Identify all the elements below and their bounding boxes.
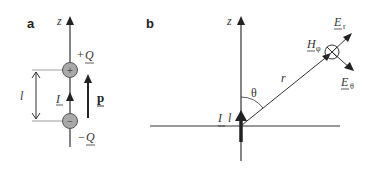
positive-charge-sign: +	[67, 65, 73, 76]
theta-label: θ	[251, 86, 257, 100]
e-r-label: E	[333, 15, 342, 29]
z-axis-label-b: z	[226, 14, 232, 28]
dipole-moment-arrowhead	[84, 74, 92, 83]
length-label: l	[20, 89, 24, 103]
panel-b-label: b	[146, 16, 154, 31]
z-axis-label-a: z	[56, 14, 62, 28]
current-arrow	[66, 92, 74, 101]
positive-charge-prefix: +	[77, 48, 84, 62]
e-theta-label: E	[340, 75, 349, 89]
current-label: I	[55, 92, 61, 106]
radius-label: r	[281, 71, 286, 85]
source-length-label: l	[228, 111, 232, 125]
negative-charge-symbol: Q	[86, 130, 95, 144]
negative-charge-prefix: −	[78, 130, 85, 144]
e-theta-subscript: θ	[350, 82, 354, 91]
dipole-moment-label: p	[97, 90, 104, 105]
panel-b: b z I l θ r H φ E r E	[146, 14, 354, 161]
current-element-arrowhead	[235, 110, 247, 121]
positive-charge-symbol: Q	[85, 48, 94, 62]
source-current-label: I	[217, 111, 223, 125]
e-r-subscript: r	[343, 22, 346, 31]
dipole-diagram: a z l I + + Q − − Q p b	[0, 0, 373, 169]
negative-charge-sign: −	[67, 116, 73, 127]
z-axis-arrowhead-a	[66, 16, 74, 25]
panel-a: a z l I + + Q − − Q p	[20, 14, 104, 147]
z-axis-arrowhead-b	[237, 16, 245, 25]
panel-a-label: a	[27, 16, 35, 31]
h-phi-subscript: φ	[316, 44, 321, 53]
